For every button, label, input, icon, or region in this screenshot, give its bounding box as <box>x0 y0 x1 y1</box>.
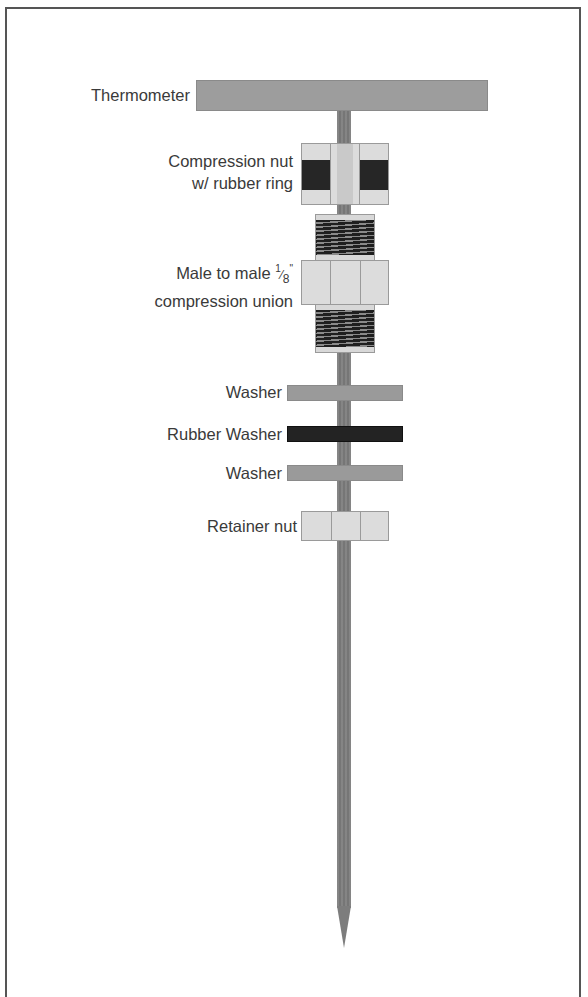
compression-nut-label-line2: w/ rubber ring <box>100 172 293 194</box>
nut-facet-line <box>360 512 361 540</box>
nut-facet-line <box>359 144 360 204</box>
washer-1-label: Washer <box>150 381 282 403</box>
washer-1 <box>287 385 403 401</box>
nut-facet-line <box>330 261 331 304</box>
diagram-frame <box>5 7 581 997</box>
washer-2-label: Washer <box>150 462 282 484</box>
compression-nut-label-line1: Compression nut <box>100 150 293 172</box>
rod-through-nut <box>337 144 353 204</box>
probe-tip <box>337 906 351 948</box>
compression-union-label-line1: Male to male 1⁄8" <box>100 258 293 290</box>
union-hex-nut <box>301 260 389 305</box>
nut-facet-line <box>331 512 332 540</box>
rubber-ring-left <box>302 160 330 190</box>
thermometer-head <box>196 80 488 111</box>
union-lower-thread <box>315 304 375 353</box>
compression-union-label-line2: compression union <box>100 290 293 312</box>
nut-facet-line <box>360 261 361 304</box>
compression-nut <box>301 143 389 205</box>
rubber-washer-label: Rubber Washer <box>120 423 282 445</box>
retainer-nut-label: Retainer nut <box>140 515 297 537</box>
thermometer-label: Thermometer <box>60 84 190 106</box>
washer-2 <box>287 465 403 481</box>
compression-nut-label: Compression nut w/ rubber ring <box>100 150 293 194</box>
rubber-washer <box>287 426 403 442</box>
retainer-nut <box>301 511 389 541</box>
rubber-ring-right <box>359 160 388 190</box>
union-upper-thread <box>315 214 375 261</box>
nut-facet-line <box>330 144 331 204</box>
compression-union-label: Male to male 1⁄8" compression union <box>100 258 293 312</box>
